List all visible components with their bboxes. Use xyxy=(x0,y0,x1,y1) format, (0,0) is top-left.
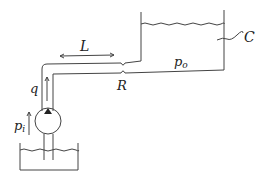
hydraulic-diagram: L q R po pi C xyxy=(0,0,270,182)
length-label: L xyxy=(79,38,89,54)
tank-water-surface xyxy=(141,23,224,25)
restriction-symbol xyxy=(121,63,125,73)
flow-label: q xyxy=(30,81,38,96)
pump-triangle-icon xyxy=(44,108,52,114)
restriction-label: R xyxy=(116,78,127,93)
capacitance-label: C xyxy=(244,29,255,45)
lower-reservoir xyxy=(20,143,79,170)
pipe-inner xyxy=(53,70,224,111)
outlet-pressure-label: po xyxy=(174,54,188,70)
inlet-pressure-label: pi xyxy=(14,118,25,134)
capacitance-leader xyxy=(217,31,243,40)
length-arrow xyxy=(60,55,114,56)
